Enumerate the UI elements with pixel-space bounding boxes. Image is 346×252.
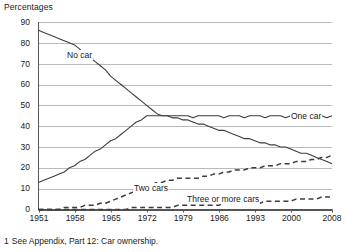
x-tick-2000: 2000: [274, 213, 310, 223]
footnote: 1See Appendix, Part 12: Car ownership.: [4, 236, 158, 246]
series-label-one-car: One car: [290, 111, 322, 121]
x-tick-1965: 1965: [93, 213, 129, 223]
series-line-one-car: [39, 116, 333, 183]
x-tick-1951: 1951: [21, 213, 57, 223]
x-tick-1958: 1958: [57, 213, 93, 223]
x-tick-1993: 1993: [238, 213, 274, 223]
footnote-number: 1: [4, 236, 9, 246]
series-label-three-or-more-cars: Three or more cars: [186, 194, 260, 204]
x-tick-2008: 2008: [314, 213, 346, 223]
series-label-no-car: No car: [66, 50, 93, 60]
x-tick-1979: 1979: [165, 213, 201, 223]
x-tick-1972: 1972: [129, 213, 165, 223]
footnote-text: See Appendix, Part 12: Car ownership.: [12, 236, 158, 246]
series-label-two-cars: Two cars: [133, 183, 169, 193]
x-tick-1986: 1986: [201, 213, 237, 223]
